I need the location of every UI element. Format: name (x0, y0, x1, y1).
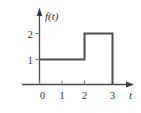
y-tick-label-1: 1 (28, 54, 34, 66)
x-axis-label: t (129, 89, 133, 101)
x-axis-arrow-icon (126, 82, 134, 88)
x-tick-label-1: 1 (59, 89, 65, 101)
y-axis-label: f(t) (45, 10, 59, 23)
x-tick-label-2: 2 (82, 89, 88, 101)
signal-waveform (40, 34, 113, 85)
plot-canvas: 2 1 0 1 2 3 f(t) t (0, 0, 141, 113)
x-tick-label-0: 0 (40, 89, 46, 101)
y-axis-arrow-icon (37, 8, 43, 16)
x-tick-label-3: 3 (110, 89, 116, 101)
function-plot-figure: 2 1 0 1 2 3 f(t) t (0, 0, 141, 113)
y-tick-label-2: 2 (28, 28, 34, 40)
